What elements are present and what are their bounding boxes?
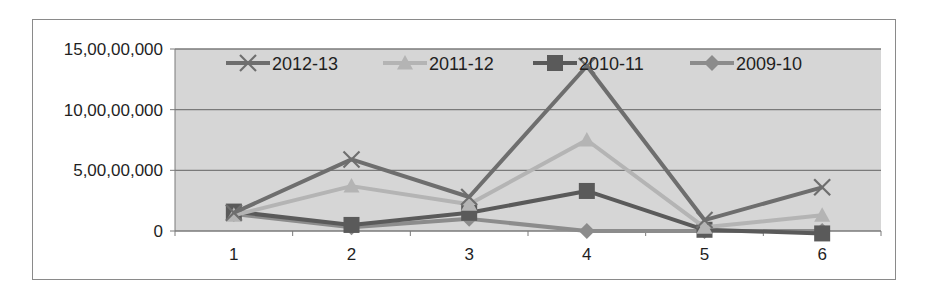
legend-square-marker-icon [547, 55, 563, 71]
x-tick-label: 6 [817, 245, 826, 264]
y-tick-label: 15,00,00,000 [64, 40, 163, 59]
series-point-square-marker-icon [344, 217, 360, 233]
legend-label: 2010-11 [579, 54, 644, 74]
x-tick-label: 1 [229, 245, 238, 264]
legend-label: 2012-13 [272, 54, 338, 74]
legend-label: 2009-10 [736, 54, 802, 74]
x-tick-label: 3 [464, 245, 473, 264]
legend-label: 2011-12 [429, 54, 494, 74]
x-tick-label: 4 [582, 245, 591, 264]
y-tick-label: 0 [154, 222, 163, 241]
y-axis: 05,00,00,00010,00,00,00015,00,00,000 [64, 40, 175, 241]
series-point-square-marker-icon [579, 183, 595, 199]
y-tick-label: 10,00,00,000 [64, 101, 163, 120]
line-chart: 05,00,00,00010,00,00,00015,00,00,000 123… [0, 0, 925, 294]
x-axis: 123456 [175, 231, 881, 264]
y-tick-label: 5,00,00,000 [73, 161, 163, 180]
x-tick-label: 2 [347, 245, 356, 264]
x-tick-label: 5 [700, 245, 709, 264]
legend-item-2010-11: 2010-11 [533, 54, 644, 74]
series-point-square-marker-icon [814, 225, 830, 241]
